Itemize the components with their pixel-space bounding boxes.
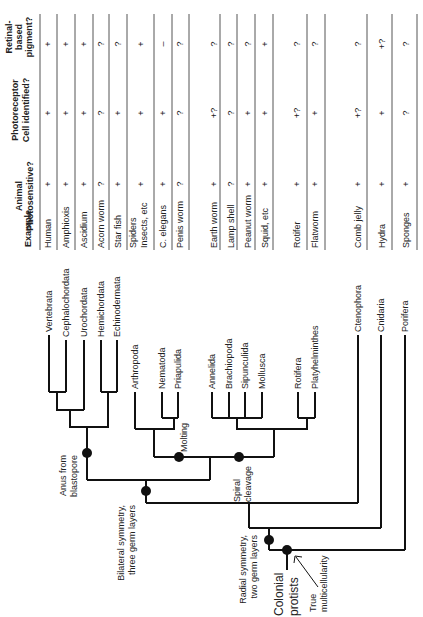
- svg-text:Hemichordata: Hemichordata: [96, 281, 106, 337]
- header-retinal-pigment: Retinal-basedpigment?: [4, 17, 34, 58]
- cell-photosensitive: +: [377, 181, 387, 186]
- cell-photoreceptor: ?: [175, 110, 185, 115]
- svg-text:Bilateral symmetry,: Bilateral symmetry,: [116, 505, 126, 581]
- svg-text:+: +: [79, 41, 89, 46]
- taxon-label: Cephalochordata: [61, 268, 71, 337]
- svg-text:Earth worm: Earth worm: [209, 202, 219, 248]
- node-label-spiral-cleavage: Spiralcleavage: [232, 466, 253, 502]
- cell-photosensitive: ?: [96, 181, 106, 186]
- cell-retinal-pigment: ?: [243, 41, 253, 46]
- svg-text:+: +: [243, 110, 253, 115]
- branch-ecdysozoa: [135, 418, 174, 429]
- cell-retinal-pigment: ?: [401, 41, 411, 46]
- svg-text:+: +: [43, 110, 53, 115]
- taxon-label: Mollusca: [257, 353, 267, 389]
- cell-photoreceptor: +: [243, 110, 253, 115]
- cell-photoreceptor: ?: [401, 110, 411, 115]
- row-example: Amphioxis: [61, 206, 71, 248]
- svg-text:+: +: [310, 181, 320, 186]
- node-label-radial: Radial symmetry,two germ layers: [238, 535, 259, 604]
- cell-retinal-pigment: ?: [353, 41, 363, 46]
- svg-text:Hydra: Hydra: [377, 224, 387, 248]
- taxon-label: Porifera: [400, 300, 410, 332]
- svg-text:protists: protists: [287, 577, 301, 616]
- svg-text:?: ?: [401, 110, 411, 115]
- svg-text:multicellularity: multicellularity: [319, 555, 329, 612]
- svg-text:?: ?: [292, 41, 302, 46]
- node-label-anus: Anus fromblastopore: [58, 455, 79, 497]
- node-dot-spiral: [234, 452, 244, 462]
- row-example: Squid, etc: [260, 207, 270, 248]
- taxon-label: Hemichordata: [96, 281, 106, 337]
- cell-photoreceptor: +: [377, 110, 387, 115]
- cell-retinal-pigment: ?: [310, 41, 320, 46]
- row-example: Lamp shell: [226, 204, 236, 248]
- svg-text:?: ?: [175, 110, 185, 115]
- cell-photosensitive: +: [401, 181, 411, 186]
- svg-text:?: ?: [243, 41, 253, 46]
- cell-retinal-pigment: ?: [113, 41, 123, 46]
- cell-photoreceptor: +?: [292, 108, 302, 118]
- svg-text:+: +: [310, 110, 320, 115]
- svg-text:based: based: [14, 24, 24, 50]
- cell-photosensitive: +: [353, 181, 363, 186]
- svg-text:+: +: [113, 110, 123, 115]
- svg-text:Animal: Animal: [14, 181, 24, 211]
- taxon-label: Sipunculida: [240, 342, 250, 389]
- cell-photosensitive: ?: [175, 181, 185, 186]
- svg-text:?: ?: [96, 41, 106, 46]
- svg-text:?: ?: [226, 181, 236, 186]
- row-example: Hydra: [377, 224, 387, 248]
- svg-text:Vertebrata: Vertebrata: [44, 290, 54, 332]
- svg-text:?: ?: [353, 41, 363, 46]
- node-dot-bilateral: [141, 486, 151, 496]
- svg-text:Mollusca: Mollusca: [257, 353, 267, 389]
- node-label-colonial-protists: Colonialprotists: [272, 573, 301, 616]
- cell-retinal-pigment: ?: [175, 41, 185, 46]
- svg-text:Spiral: Spiral: [232, 479, 242, 502]
- taxon-label: Platyhelminthes: [310, 325, 320, 389]
- svg-text:Insects, etc: Insects, etc: [139, 202, 149, 248]
- taxon-label: Rotifera: [293, 357, 303, 389]
- node-dot-anus: [82, 448, 92, 458]
- svg-text:Photoreceptor: Photoreceptor: [10, 79, 20, 141]
- svg-text:Radial symmetry,: Radial symmetry,: [238, 535, 248, 604]
- cell-photosensitive: +: [79, 181, 89, 186]
- svg-text:–: –: [158, 41, 168, 46]
- svg-text:?: ?: [175, 41, 185, 46]
- svg-text:two germ layers: two germ layers: [249, 535, 259, 599]
- cell-retinal-pigment: +: [79, 41, 89, 46]
- svg-text:Sipunculida: Sipunculida: [240, 342, 250, 389]
- taxon-label: Vertebrata: [44, 290, 54, 332]
- taxon-label: Urochordata: [79, 287, 89, 337]
- svg-text:+: +: [260, 181, 270, 186]
- cell-photosensitive: +: [260, 181, 270, 186]
- cell-retinal-pigment: +: [260, 41, 270, 46]
- cell-photosensitive: +: [209, 181, 219, 186]
- cell-retinal-pigment: +: [61, 41, 71, 46]
- svg-text:+: +: [292, 181, 302, 186]
- svg-text:Platyhelminthes: Platyhelminthes: [310, 325, 320, 389]
- svg-text:Molting: Molting: [179, 423, 189, 452]
- svg-text:+: +: [158, 110, 168, 115]
- svg-text:+: +: [353, 181, 363, 186]
- svg-text:Acorn worm: Acorn worm: [96, 200, 106, 248]
- taxon-label: Ctenophora: [353, 285, 363, 332]
- svg-text:+: +: [209, 181, 219, 186]
- row-example: Peanut worm: [243, 195, 253, 248]
- cell-photosensitive: +: [243, 181, 253, 186]
- svg-text:Nematoda: Nematoda: [157, 347, 167, 389]
- svg-text:Peanut worm: Peanut worm: [243, 195, 253, 248]
- svg-text:+?: +?: [209, 108, 219, 118]
- svg-text:+: +: [61, 41, 71, 46]
- row-example: C. elegans: [158, 204, 168, 248]
- svg-text:Photosensitive?: Photosensitive?: [25, 161, 35, 231]
- svg-text:Brachiopoda: Brachiopoda: [224, 338, 234, 389]
- cell-retinal-pigment: ?: [292, 41, 302, 46]
- svg-text:+: +: [113, 181, 123, 186]
- cell-photoreceptor: +: [61, 110, 71, 115]
- row-example: Penis worm: [175, 201, 185, 248]
- svg-text:+: +: [260, 41, 270, 46]
- svg-text:Retinal-: Retinal-: [4, 20, 14, 53]
- svg-text:Flatworm: Flatworm: [310, 211, 320, 248]
